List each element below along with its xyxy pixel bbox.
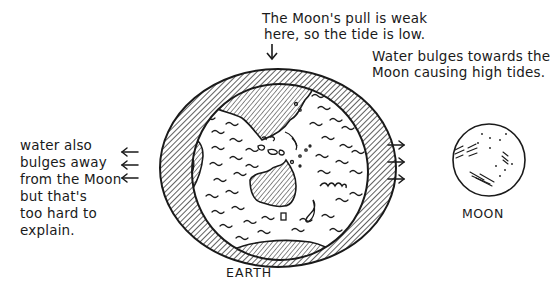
far-side-bulge-annotation: water also bulges away from the Moon but… — [20, 137, 121, 239]
low-tide-annotation: The Moon's pull is weak here, so the tid… — [262, 10, 427, 42]
annotation-line: explain. — [20, 222, 121, 239]
moon — [453, 124, 525, 196]
annotation-line: bulges away — [20, 154, 121, 171]
annotation-line: water also — [20, 137, 121, 154]
arrow-down-icon — [267, 44, 277, 59]
tasmania — [281, 213, 286, 220]
arrow-left-icon — [122, 161, 138, 169]
arrows-left-icon — [122, 148, 138, 182]
annotation-line: here, so the tide is low. — [262, 26, 427, 42]
arrow-left-icon — [122, 174, 138, 182]
high-tide-annotation: Water bulges towards the Moon causing hi… — [372, 48, 550, 80]
annotation-line: The Moon's pull is weak — [262, 10, 427, 26]
annotation-line: from the Moon — [20, 171, 121, 188]
earth-label: EARTH — [226, 265, 272, 281]
annotation-line: too hard to — [20, 205, 121, 222]
annotation-line: but that's — [20, 188, 121, 205]
moon-label: MOON — [462, 206, 504, 222]
annotation-line: Moon causing high tides. — [372, 64, 550, 80]
arrow-left-icon — [122, 148, 138, 156]
annotation-line: Water bulges towards the — [372, 48, 550, 64]
